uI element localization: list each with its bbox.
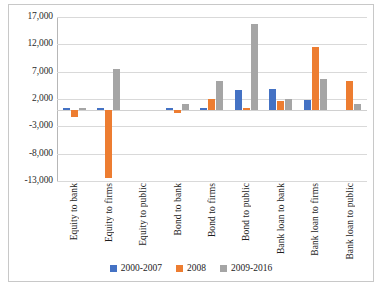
chart-container: 17,00012,0007,0002,000-3,000-8,000-13,00… <box>8 4 374 282</box>
bar <box>312 47 319 110</box>
y-axis-tick-label: -8,000 <box>9 149 53 159</box>
bar <box>97 108 104 110</box>
legend-swatch-icon <box>176 265 183 272</box>
x-axis-label: Bond to public <box>241 183 251 241</box>
bar-group <box>264 17 298 181</box>
bar-group <box>160 17 194 181</box>
x-axis-label: Bond to firms <box>207 183 217 237</box>
x-axis-label: Bank loan to firms <box>310 183 320 256</box>
x-axis-label: Equity to firms <box>104 183 114 242</box>
bar <box>63 108 70 110</box>
bar <box>71 110 78 117</box>
bar <box>235 90 242 110</box>
legend-label: 2008 <box>187 263 206 273</box>
x-axis-label: Bank loan to public <box>345 183 355 260</box>
bar-group <box>229 17 263 181</box>
bar <box>79 108 86 110</box>
legend-swatch-icon <box>110 265 117 272</box>
bar-group <box>126 17 160 181</box>
x-axis-category-labels: Equity to bankEquity to firmsEquity to p… <box>57 183 367 259</box>
y-axis-tick-label: 7,000 <box>9 67 53 77</box>
y-axis-tick-label: 17,000 <box>9 12 53 22</box>
gridline <box>57 181 367 182</box>
legend-item[interactable]: 2009-2016 <box>220 263 272 273</box>
bar <box>105 110 112 178</box>
x-axis-label: Bank loan to bank <box>276 183 286 254</box>
bar <box>277 101 284 110</box>
bar <box>113 69 120 109</box>
bar <box>200 108 207 110</box>
bar <box>243 108 250 110</box>
bar-group <box>57 17 91 181</box>
bar <box>208 99 215 110</box>
chart-legend: 2000-200720082009-2016 <box>9 263 373 273</box>
legend-item[interactable]: 2000-2007 <box>110 263 162 273</box>
bar-group <box>333 17 367 181</box>
plot-area <box>57 17 367 181</box>
bar <box>174 110 181 113</box>
x-axis-label: Bond to bank <box>173 183 183 235</box>
x-axis-label: Equity to bank <box>69 183 79 240</box>
legend-item[interactable]: 2008 <box>176 263 206 273</box>
y-axis-tick-label: -13,000 <box>9 176 53 186</box>
bar <box>304 100 311 110</box>
y-axis-tick-label: 2,000 <box>9 94 53 104</box>
bar <box>251 24 258 110</box>
bar <box>285 99 292 110</box>
bar-group <box>195 17 229 181</box>
bar <box>354 104 361 109</box>
bar <box>182 104 189 110</box>
y-axis-tick-label: -3,000 <box>9 121 53 131</box>
bar <box>216 81 223 110</box>
bar <box>166 108 173 110</box>
x-axis-label: Equity to public <box>138 183 148 246</box>
legend-label: 2000-2007 <box>121 263 162 273</box>
y-axis-tick-labels: 17,00012,0007,0002,000-3,000-8,000-13,00… <box>9 17 53 181</box>
bar-group <box>91 17 125 181</box>
bar <box>320 79 327 110</box>
bar <box>346 81 353 110</box>
bar-group <box>298 17 332 181</box>
legend-label: 2009-2016 <box>231 263 272 273</box>
bar <box>269 89 276 110</box>
legend-swatch-icon <box>220 265 227 272</box>
y-axis-tick-label: 12,000 <box>9 39 53 49</box>
